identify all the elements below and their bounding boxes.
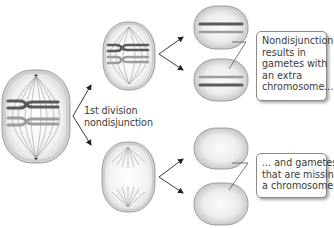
callout-missing-chromosome: ... and gametes that are missing a chrom…: [256, 153, 327, 198]
daughter-cell-empty: [102, 142, 155, 212]
gamete-extra-2: [194, 59, 248, 101]
division-label-line2: nondisjunction: [84, 117, 153, 129]
gamete-extra-1: [194, 6, 248, 49]
callout-text-line: ... and gametes: [262, 157, 321, 169]
callout-extra-chromosome: Nondisjunction results in gametes with a…: [256, 31, 327, 101]
callout-text-line: an extra: [262, 70, 321, 82]
callout-text-line: chromosome...: [262, 81, 321, 93]
gamete-missing-2: [194, 183, 248, 225]
callout-text-line: that are missing: [262, 169, 321, 181]
callout-text-line: Nondisjunction: [262, 35, 321, 47]
parent-cell: [2, 70, 70, 163]
daughter-arrows: [159, 37, 183, 193]
callout-text-line: results in: [262, 47, 321, 59]
callout-text-line: a chromosome.: [262, 180, 321, 192]
daughter-cell-with-both: [103, 22, 155, 90]
division-label-line1: 1st division: [84, 105, 153, 117]
division-label: 1st division nondisjunction: [84, 105, 153, 128]
callout-text-line: gametes with: [262, 58, 321, 70]
nondisjunction-diagram: 1st division nondisjunction Nondisjuncti…: [0, 0, 334, 228]
